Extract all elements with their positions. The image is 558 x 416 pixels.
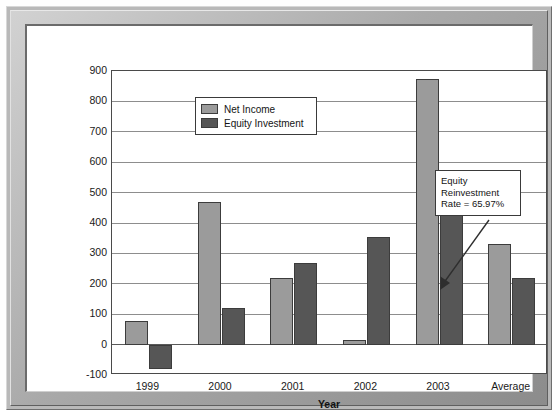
- bar-2002-net-income: [343, 340, 366, 345]
- x-tick-label-2003: 2003: [403, 380, 473, 392]
- gridline-700: [112, 131, 546, 132]
- annotation-line-1: Equity: [441, 175, 515, 187]
- annotation-callout: Equity Reinvestment Rate = 65.97%: [435, 170, 521, 216]
- legend-swatch-net-income-icon: [201, 104, 218, 114]
- legend-label-equity-investment: Equity Investment: [224, 118, 303, 129]
- y-tick-label-300: 300: [67, 247, 107, 257]
- bar-2002-equity-investment: [367, 237, 390, 344]
- y-axis: 9008007006005004003002001000-100: [57, 70, 107, 374]
- y-tick-label-400: 400: [67, 217, 107, 227]
- legend-label-net-income: Net Income: [224, 104, 275, 115]
- gridline-400: [112, 223, 546, 224]
- y-tick-label-600: 600: [67, 156, 107, 166]
- annotation-line-3: Rate = 65.97%: [441, 198, 515, 210]
- bar-chart: 9008007006005004003002001000-100 1999200…: [49, 46, 558, 416]
- x-tick-label-1999: 1999: [112, 380, 182, 392]
- legend-item-net-income: Net Income: [201, 102, 310, 116]
- y-tick-label-0: 0: [67, 339, 107, 349]
- x-axis-title: Year: [111, 398, 547, 410]
- bar-2001-equity-investment: [294, 263, 317, 345]
- bar-2001-net-income: [270, 278, 293, 344]
- bar-2000-net-income: [198, 202, 221, 344]
- legend-swatch-equity-investment-icon: [201, 118, 218, 128]
- y-tick-label-500: 500: [67, 187, 107, 197]
- y-tick-label-800: 800: [67, 95, 107, 105]
- y-tick-label--100: -100: [67, 369, 107, 379]
- picture-frame-bevel: 9008007006005004003002001000-100 1999200…: [10, 10, 548, 406]
- plot-area: [111, 70, 547, 374]
- x-tick-label-average: Average: [476, 380, 546, 392]
- x-tick-label-2002: 2002: [330, 380, 400, 392]
- gridline-600: [112, 162, 546, 163]
- bar-average-equity-investment: [512, 278, 535, 345]
- annotation-line-2: Reinvestment: [441, 187, 515, 199]
- y-tick-label-200: 200: [67, 278, 107, 288]
- y-tick-label-700: 700: [67, 126, 107, 136]
- gridline-800: [112, 101, 546, 102]
- bar-1999-equity-investment: [149, 345, 172, 369]
- gridline-0: [112, 344, 546, 345]
- y-tick-label-100: 100: [67, 308, 107, 318]
- bar-2003-equity-investment: [440, 209, 463, 344]
- gridline-100: [112, 314, 546, 315]
- gridline-300: [112, 253, 546, 254]
- legend-item-equity-investment: Equity Investment: [201, 116, 310, 130]
- y-tick-label-900: 900: [67, 65, 107, 75]
- bar-average-net-income: [488, 244, 511, 345]
- picture-frame-outer: 9008007006005004003002001000-100 1999200…: [6, 6, 552, 410]
- gridline-200: [112, 283, 546, 284]
- chart-legend: Net Income Equity Investment: [195, 97, 317, 135]
- bar-2000-equity-investment: [222, 308, 245, 344]
- x-tick-label-2000: 2000: [185, 380, 255, 392]
- bar-1999-net-income: [125, 321, 148, 345]
- x-tick-label-2001: 2001: [258, 380, 328, 392]
- chart-white-canvas: 9008007006005004003002001000-100 1999200…: [25, 24, 533, 392]
